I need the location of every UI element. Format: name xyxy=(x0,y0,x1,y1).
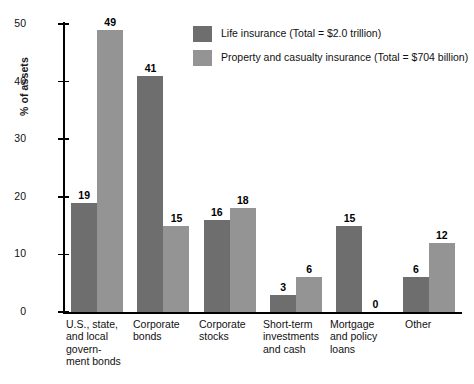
x-category-label-line: govern- xyxy=(66,343,121,355)
x-category-label-line: U.S., state, xyxy=(66,318,121,330)
legend-label: Property and casualty insurance (Total =… xyxy=(221,50,468,65)
x-category-label-line: bonds xyxy=(133,330,180,342)
bar-value-label: 6 xyxy=(306,263,312,275)
x-category-label-line: Other xyxy=(405,318,431,330)
x-category-label-line: and cash xyxy=(263,343,319,355)
x-category-label: Short-terminvestmentsand cash xyxy=(263,318,319,355)
bar-value-label: 15 xyxy=(171,212,183,224)
x-category-label: Mortgageand policyloans xyxy=(330,318,377,355)
y-tick-label-10: 10 xyxy=(0,247,26,259)
bar[interactable]: 6 xyxy=(296,277,322,312)
x-category-label-line: Mortgage xyxy=(330,318,377,330)
legend-swatch-icon xyxy=(193,26,212,42)
bar-value-label: 41 xyxy=(145,62,157,74)
bar-value-label: 18 xyxy=(237,194,249,206)
x-category-label: Corporatestocks xyxy=(199,318,246,343)
x-category-label-line: stocks xyxy=(199,330,246,342)
x-category-label-line: Short-term xyxy=(263,318,319,330)
x-category-label: U.S., state,and localgovern-ment bonds xyxy=(66,318,121,368)
bar-group: 1949 xyxy=(66,24,128,312)
bar-value-label: 12 xyxy=(436,229,448,241)
bar-group: 4115 xyxy=(132,24,194,312)
legend-item[interactable]: Property and casualty insurance (Total =… xyxy=(193,50,468,66)
x-category-label-line: Corporate xyxy=(199,318,246,330)
bar-chart: % of assets 01020304050 1949411516183615… xyxy=(0,0,474,384)
bar[interactable]: 6 xyxy=(403,277,429,312)
bar-value-label: 49 xyxy=(104,16,116,28)
y-tick-label-40: 40 xyxy=(0,75,26,87)
bar[interactable]: 19 xyxy=(71,203,97,312)
x-category-label-line: and local xyxy=(66,330,121,342)
bar[interactable]: 15 xyxy=(336,226,362,312)
x-category-label-line: investments xyxy=(263,330,319,342)
bar-value-label: 6 xyxy=(413,263,419,275)
x-axis-line xyxy=(63,312,462,314)
x-category-label-line: loans xyxy=(330,343,377,355)
y-tick-label-50: 50 xyxy=(0,17,26,29)
chart-legend: Life insurance (Total = $2.0 trillion)Pr… xyxy=(193,26,468,74)
y-tick-label-30: 30 xyxy=(0,132,26,144)
y-tick-label-20: 20 xyxy=(0,190,26,202)
bar[interactable]: 3 xyxy=(270,295,296,312)
bar-value-label: 3 xyxy=(280,281,286,293)
x-category-label-line: and policy xyxy=(330,330,377,342)
x-category-label-line: Corporate xyxy=(133,318,180,330)
legend-item[interactable]: Life insurance (Total = $2.0 trillion) xyxy=(193,26,468,42)
bar-value-label: 19 xyxy=(78,189,90,201)
legend-swatch-icon xyxy=(193,50,212,66)
x-category-label-line: ment bonds xyxy=(66,355,121,367)
bar[interactable]: 41 xyxy=(137,76,163,312)
bar[interactable]: 16 xyxy=(204,220,230,312)
bar-value-label: 16 xyxy=(211,206,223,218)
x-category-label: Corporatebonds xyxy=(133,318,180,343)
bar[interactable]: 18 xyxy=(230,208,256,312)
bar-value-label: 0 xyxy=(373,298,379,310)
bar[interactable]: 12 xyxy=(429,243,455,312)
bar-value-label: 15 xyxy=(344,212,356,224)
y-tick-label-0: 0 xyxy=(0,305,26,317)
bar[interactable]: 49 xyxy=(97,30,123,312)
legend-label: Life insurance (Total = $2.0 trillion) xyxy=(221,26,381,41)
x-category-label: Other xyxy=(405,318,431,330)
bar[interactable]: 15 xyxy=(163,226,189,312)
